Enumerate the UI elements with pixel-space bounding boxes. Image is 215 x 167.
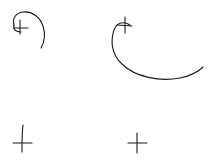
spiral-stroke xyxy=(13,12,44,48)
cross-vertical xyxy=(22,125,23,152)
crosshair-with-arc-top-right xyxy=(112,17,203,79)
crosshair-bottom-left xyxy=(13,125,32,152)
sketch-canvas xyxy=(0,0,215,167)
arc-stroke xyxy=(112,23,203,80)
crosshair-bottom-right xyxy=(128,133,147,153)
crosshair-with-spiral-top-left xyxy=(13,12,44,48)
